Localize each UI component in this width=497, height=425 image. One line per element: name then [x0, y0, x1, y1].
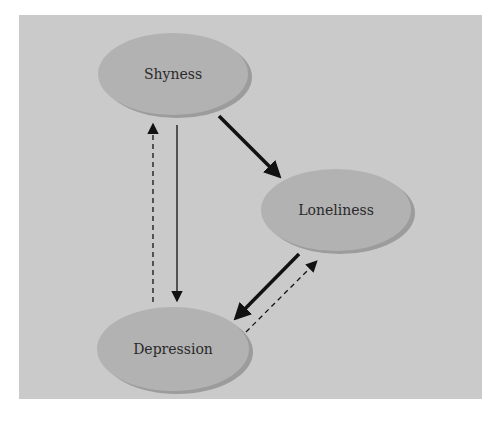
node-shyness: Shyness: [98, 33, 252, 118]
arrow-shyness-to-loneliness: [219, 116, 279, 176]
node-label-loneliness: Loneliness: [298, 202, 374, 218]
diagram-canvas: Shyness Loneliness Depression: [0, 0, 497, 425]
node-loneliness: Loneliness: [261, 169, 415, 254]
node-depression: Depression: [97, 307, 253, 394]
arrow-loneliness-to-depression: [236, 254, 299, 318]
node-label-depression: Depression: [133, 341, 213, 357]
node-label-shyness: Shyness: [144, 66, 202, 82]
